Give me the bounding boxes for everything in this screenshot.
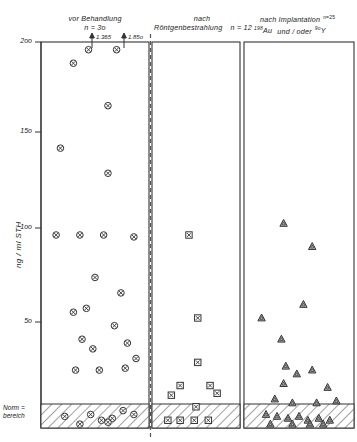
series-3-points: [258, 219, 340, 427]
data-point: [186, 232, 192, 238]
data-point: [87, 411, 94, 418]
data-point: [61, 413, 68, 420]
plot-svg: [0, 0, 357, 442]
data-point: [118, 290, 125, 297]
data-point: [214, 390, 220, 396]
data-point: [79, 336, 86, 343]
data-point: [195, 359, 201, 365]
data-point: [195, 315, 201, 321]
data-point: [280, 380, 287, 387]
panel-2-frame: [152, 42, 240, 428]
data-point: [168, 392, 174, 398]
data-point: [280, 219, 287, 226]
data-point: [92, 274, 99, 281]
data-point: [85, 46, 92, 53]
data-point: [77, 421, 84, 428]
data-point: [72, 367, 79, 374]
data-point: [278, 335, 285, 342]
data-point: [83, 305, 90, 312]
data-point: [313, 399, 320, 406]
data-point: [333, 397, 340, 404]
data-point: [111, 322, 118, 329]
data-point: [70, 60, 77, 67]
data-point: [293, 370, 300, 377]
data-point: [120, 407, 127, 414]
offscale-arrow-1: [90, 33, 95, 48]
data-point: [53, 232, 60, 239]
data-point: [70, 309, 77, 316]
data-point: [205, 417, 211, 423]
data-point: [113, 46, 120, 53]
data-point: [177, 382, 183, 388]
data-point: [258, 314, 265, 321]
data-point: [124, 340, 131, 347]
figure-container: vor Behandlung n = 3o nach Röntgenbestra…: [0, 0, 357, 442]
data-point: [271, 395, 278, 402]
data-point: [324, 383, 331, 390]
data-point: [122, 365, 129, 372]
data-point: [100, 232, 107, 239]
data-point: [57, 145, 64, 152]
data-point: [191, 417, 197, 423]
data-point: [309, 243, 316, 250]
data-point: [207, 382, 213, 388]
series-2-points: [165, 232, 221, 424]
data-point: [96, 367, 103, 374]
data-point: [105, 419, 112, 426]
data-point: [309, 366, 316, 373]
data-point: [131, 411, 138, 418]
data-point: [90, 346, 97, 353]
panel-3-frame: [244, 42, 354, 428]
data-point: [77, 232, 84, 239]
data-point: [133, 355, 140, 362]
offscale-arrow-2: [122, 33, 127, 48]
data-point: [105, 170, 112, 177]
data-point: [165, 417, 171, 423]
data-point: [98, 417, 105, 424]
data-point: [289, 399, 296, 406]
series-1-points: [53, 46, 140, 427]
data-point: [300, 300, 307, 307]
data-point: [193, 404, 199, 410]
data-point: [105, 102, 112, 109]
data-point: [177, 417, 183, 423]
data-point: [131, 234, 138, 241]
data-point: [282, 362, 289, 369]
